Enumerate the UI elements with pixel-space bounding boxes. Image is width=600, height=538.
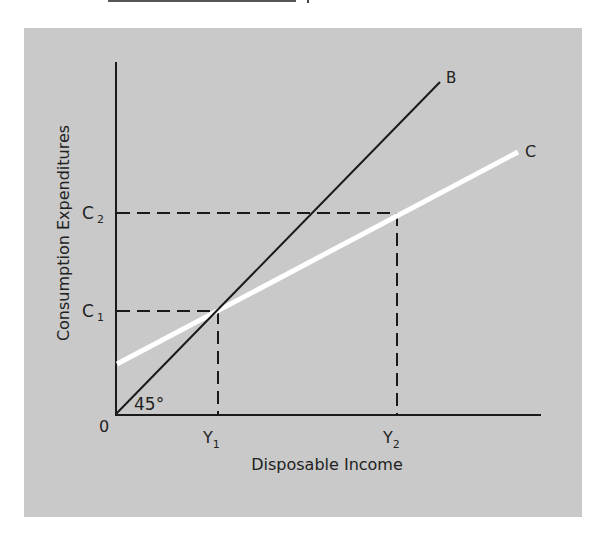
- tick-y1: Y1: [202, 428, 220, 451]
- guide-c2-y2: [117, 213, 397, 415]
- guide-c1-y1: [117, 311, 218, 415]
- line-b-label: B: [446, 69, 456, 87]
- angle-label: 45°: [134, 394, 164, 414]
- tick-y2: Y2: [382, 428, 400, 451]
- x-axis-title: Disposable Income: [251, 455, 403, 474]
- tick-c2: C2: [82, 203, 104, 226]
- origin-label: 0: [99, 417, 109, 436]
- tick-c1: C1: [82, 301, 104, 324]
- line-c-consumption-function: [117, 152, 518, 364]
- y-axis-title: Consumption Expenditures: [54, 125, 73, 341]
- line-c-label: C: [525, 142, 536, 161]
- line-b-45-degree: [116, 82, 440, 414]
- consumption-diagram: B C 45° 0 Y1 Y2 C1 C2 Disposable Income …: [0, 0, 600, 538]
